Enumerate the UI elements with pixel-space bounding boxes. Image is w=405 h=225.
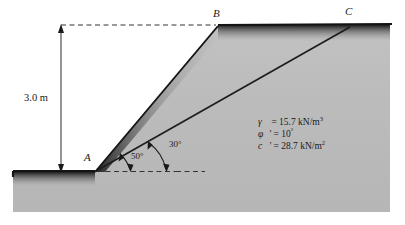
- angle-label-50: 50°: [131, 152, 144, 161]
- parameter-equals-phi: =: [273, 129, 278, 139]
- top-surface-shadow: [218, 25, 390, 42]
- parameter-value-phi: 10: [281, 129, 291, 139]
- parameter-value-c: 28.7 kN/m: [281, 141, 322, 151]
- parameter-symbol-phi: φ: [258, 128, 269, 140]
- parameter-exponent-c: 2: [322, 139, 325, 146]
- parameter-row-c: c′ = 28.7 kN/m2: [258, 140, 325, 152]
- parameter-symbol-c: c: [258, 140, 269, 152]
- parameter-prime-c: ′: [269, 141, 271, 151]
- parameter-row-phi: φ′ = 10°: [258, 128, 325, 140]
- slope-diagram-svg: [0, 0, 405, 225]
- parameter-equals-gamma: =: [271, 117, 276, 127]
- height-dimension-label: 3.0 m: [24, 93, 48, 104]
- parameter-prime-phi: ′: [269, 129, 271, 139]
- parameter-symbol-gamma: γ: [258, 116, 269, 128]
- slope-stability-figure: A B C 3.0 m 50° 30° γ = 15.7 kN/m3 φ′ = …: [0, 0, 405, 225]
- lower-surface-shadow: [13, 172, 95, 187]
- point-label-C: C: [345, 6, 352, 17]
- point-label-B: B: [213, 8, 220, 19]
- angle-label-30: 30°: [169, 140, 182, 149]
- upper-ground-line: [218, 24, 392, 25]
- point-label-A: A: [84, 152, 91, 163]
- soil-parameters-block: γ = 15.7 kN/m3 φ′ = 10° c′ = 28.7 kN/m2: [258, 116, 325, 152]
- parameter-value-gamma: 15.7 kN/m: [279, 117, 320, 127]
- parameter-exponent-gamma: 3: [320, 115, 323, 122]
- parameter-equals-c: =: [273, 141, 278, 151]
- height-dimension: [58, 24, 64, 173]
- parameter-exponent-phi: °: [291, 127, 294, 134]
